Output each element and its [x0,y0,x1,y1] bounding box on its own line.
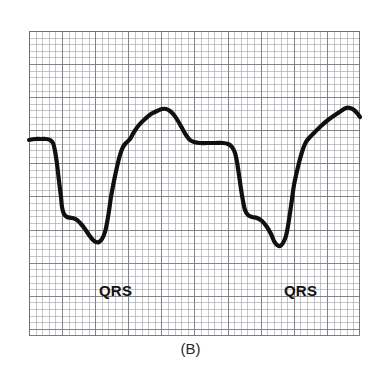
ecg-grid-paper: QRS QRS [29,31,360,336]
panel-caption: (B) [0,341,381,356]
ecg-waveform-path [29,108,360,246]
ecg-figure: QRS QRS (B) [0,0,381,365]
qrs-annotation-first: QRS [99,283,132,298]
qrs-annotation-second: QRS [284,283,317,298]
